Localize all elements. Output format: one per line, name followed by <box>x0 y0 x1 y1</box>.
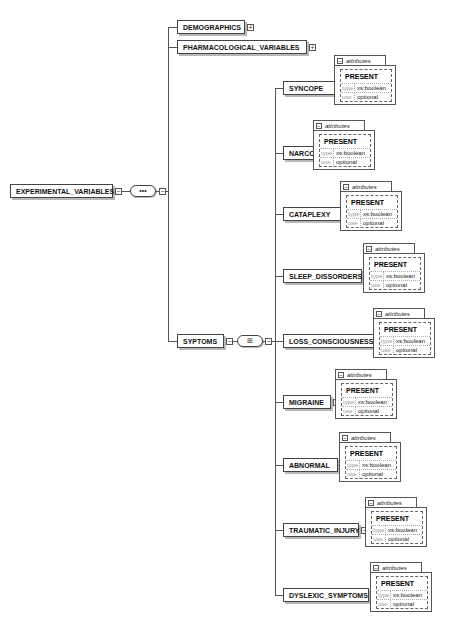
collapse-icon[interactable]: − <box>265 338 272 345</box>
attributes-box: − attributes PRESENT type xs:boolean use… <box>335 369 397 419</box>
collapse-icon[interactable]: − <box>366 246 372 252</box>
root-element-node[interactable]: EXPERIMENTAL_VARIABLES <box>10 184 113 198</box>
attribute-key: use <box>347 470 357 479</box>
attribute-key: use <box>381 346 391 355</box>
attributes-box: − attributes PRESENT type xs:boolean use… <box>313 120 375 170</box>
attribute-value: optional <box>360 219 384 228</box>
attribute-name: PRESENT <box>346 386 379 396</box>
attribute-use-row: use optional <box>347 218 397 228</box>
attribute-key: use <box>321 158 331 167</box>
element-node-symptom[interactable]: SYNCOPE <box>283 81 335 95</box>
connector-line <box>168 341 177 342</box>
attribute-present[interactable]: PRESENT type xs:boolean use optional <box>379 322 431 355</box>
collapse-icon[interactable]: − <box>373 565 379 571</box>
element-node-symptom[interactable]: TRAUMATIC_INJURY <box>283 523 359 537</box>
attribute-use-row: use optional <box>377 599 427 609</box>
element-node-symptom[interactable]: DYSLEXIC_SYMPTOMS <box>283 588 369 602</box>
element-node-symptom[interactable]: LOSS_CONSCIOUSNESS <box>283 334 380 348</box>
element-node-symptom[interactable]: MIGRAINE <box>283 395 331 409</box>
element-label: SYNCOPE <box>289 85 323 92</box>
attribute-key: use <box>342 93 352 102</box>
element-label: DYSLEXIC_SYMPTOMS <box>289 592 368 599</box>
collapse-icon[interactable]: − <box>376 311 382 317</box>
attribute-use-row: use optional <box>380 345 430 355</box>
attribute-name: PRESENT <box>351 198 384 208</box>
attribute-name: PRESENT <box>376 514 409 524</box>
connector-line <box>275 530 283 531</box>
element-label: LOSS_CONSCIOUSNESS <box>289 338 373 345</box>
attribute-value: optional <box>354 93 378 102</box>
element-node-symptom[interactable]: ABNORMAL <box>283 458 338 472</box>
element-label: PHARMACOLOGICAL_VARIABLES <box>183 44 300 51</box>
connector-line <box>122 191 130 192</box>
collapse-icon[interactable]: − <box>316 123 322 129</box>
collapse-icon[interactable]: − <box>338 372 344 378</box>
attribute-present[interactable]: PRESENT type xs:boolean use optional <box>341 383 393 416</box>
attribute-value: optional <box>333 158 357 167</box>
attribute-use-row: use optional <box>342 406 392 416</box>
collapse-icon[interactable]: − <box>226 338 233 345</box>
connector-line <box>275 341 283 342</box>
attribute-name: PRESENT <box>374 260 407 270</box>
connector-line <box>275 276 283 277</box>
attribute-value: optional <box>355 407 379 416</box>
attribute-present[interactable]: PRESENT type xs:boolean use optional <box>340 69 392 102</box>
collapse-icon[interactable]: − <box>159 188 166 195</box>
attribute-use-row: use optional <box>346 469 396 479</box>
attribute-present[interactable]: PRESENT type xs:boolean use optional <box>371 511 423 544</box>
attribute-present[interactable]: PRESENT type xs:boolean use optional <box>376 576 428 609</box>
expand-icon[interactable]: + <box>247 24 254 31</box>
connector-line <box>168 47 177 48</box>
attribute-name: PRESENT <box>384 325 417 335</box>
element-label: SYPTOMS <box>183 338 217 345</box>
all-compositor-icon[interactable]: ⊞ <box>237 335 263 347</box>
attribute-use-row: use optional <box>370 280 420 290</box>
attributes-box: − attributes PRESENT type xs:boolean use… <box>363 243 425 293</box>
attribute-use-row: use optional <box>372 534 422 544</box>
attribute-use-row: use optional <box>341 92 391 102</box>
attribute-key: use <box>348 219 358 228</box>
attribute-present[interactable]: PRESENT type xs:boolean use optional <box>346 195 398 228</box>
collapse-icon[interactable]: − <box>343 184 349 190</box>
sequence-compositor-icon[interactable]: ••• <box>130 185 156 197</box>
element-label: SLEEP_DISSORDERS <box>289 273 362 280</box>
collapse-icon[interactable]: − <box>368 500 374 506</box>
element-label: MIGRAINE <box>289 399 324 406</box>
attribute-key: use <box>378 600 388 609</box>
attribute-value: optional <box>390 600 414 609</box>
expand-icon[interactable]: + <box>309 44 316 51</box>
attribute-key: use <box>371 281 381 290</box>
element-label: DEMOGRAPHICS <box>183 24 241 31</box>
element-label: ABNORMAL <box>289 462 330 469</box>
connector-line <box>275 402 283 403</box>
attribute-value: optional <box>393 346 417 355</box>
collapse-icon[interactable]: − <box>342 435 348 441</box>
attributes-box: − attributes PRESENT type xs:boolean use… <box>365 497 427 547</box>
element-label: TRAUMATIC_INJURY <box>289 527 359 534</box>
element-node-symptom[interactable]: CATAPLEXY <box>283 207 341 221</box>
attributes-box: − attributes PRESENT type xs:boolean use… <box>334 55 396 105</box>
attribute-present[interactable]: PRESENT type xs:boolean use optional <box>345 446 397 479</box>
collapse-icon[interactable]: − <box>337 58 343 64</box>
attribute-name: PRESENT <box>350 449 383 459</box>
element-node-pharmacological-variables[interactable]: PHARMACOLOGICAL_VARIABLES <box>177 40 307 54</box>
attribute-use-row: use optional <box>320 157 370 167</box>
attribute-key: use <box>373 535 383 544</box>
collapse-icon[interactable]: − <box>115 188 122 195</box>
attributes-box: − attributes PRESENT type xs:boolean use… <box>339 432 401 482</box>
attribute-name: PRESENT <box>381 579 414 589</box>
attribute-present[interactable]: PRESENT type xs:boolean use optional <box>369 257 421 290</box>
connector-line <box>275 88 283 89</box>
attributes-box: − attributes PRESENT type xs:boolean use… <box>370 562 432 612</box>
element-node-demographics[interactable]: DEMOGRAPHICS <box>177 20 245 34</box>
attribute-value: optional <box>385 535 409 544</box>
attribute-value: optional <box>359 470 383 479</box>
attribute-key: use <box>343 407 353 416</box>
connector-line <box>275 595 283 596</box>
attribute-present[interactable]: PRESENT type xs:boolean use optional <box>319 134 371 167</box>
element-label: CATAPLEXY <box>289 211 330 218</box>
attributes-box: − attributes PRESENT type xs:boolean use… <box>373 308 435 358</box>
element-node-symptom[interactable]: SLEEP_DISSORDERS <box>283 269 362 283</box>
attributes-box: − attributes PRESENT type xs:boolean use… <box>340 181 402 231</box>
element-node-syptoms[interactable]: SYPTOMS <box>177 334 224 348</box>
